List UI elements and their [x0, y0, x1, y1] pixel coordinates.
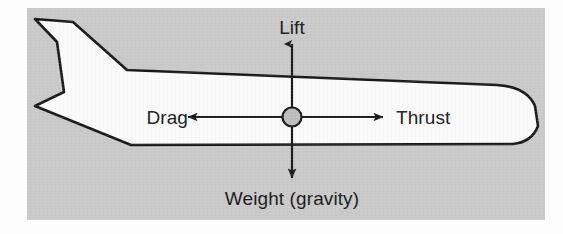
lift-label: Lift	[279, 17, 305, 38]
forces-diagram-svg: Lift Thrust Weight (gravity) Drag	[27, 8, 545, 220]
drag-label: Drag	[146, 107, 188, 128]
figure-root: Lift Thrust Weight (gravity) Drag	[0, 0, 563, 234]
weight-label: Weight (gravity)	[225, 188, 359, 209]
thrust-label: Thrust	[396, 107, 451, 128]
center-of-gravity-marker	[283, 108, 302, 127]
diagram-panel: Lift Thrust Weight (gravity) Drag	[27, 8, 545, 220]
